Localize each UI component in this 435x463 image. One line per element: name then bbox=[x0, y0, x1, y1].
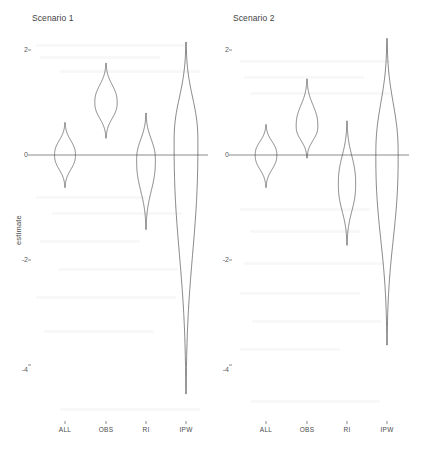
violin-ri bbox=[338, 121, 355, 245]
violin-obs bbox=[95, 63, 117, 138]
violin-plot-figure: Scenario 1 Scenario 2 estimate 2 0 -2 -4… bbox=[0, 0, 435, 463]
panel-2-plot bbox=[229, 38, 409, 424]
violin-obs bbox=[296, 79, 318, 158]
violin-all bbox=[255, 125, 277, 188]
violin-ri bbox=[137, 113, 156, 230]
plot-canvas bbox=[0, 0, 435, 463]
violin-ipw bbox=[174, 42, 198, 394]
panel-1-plot bbox=[28, 42, 208, 424]
violin-ipw bbox=[376, 38, 398, 345]
